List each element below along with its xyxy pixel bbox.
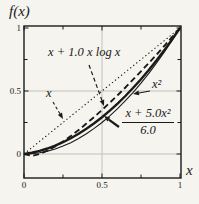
annotation-x-label: x xyxy=(46,87,52,101)
figure: f(x) x 1 0.5 0 0 0.5 1 x + 1.0 x log x x… xyxy=(0,0,199,204)
annotation-fraction-label: x + 5.0x² 6.0 xyxy=(116,106,180,138)
arrow-to-x-line-head xyxy=(58,113,63,119)
x-axis-title: x xyxy=(186,163,193,178)
arrow-to-x-line xyxy=(53,102,60,114)
y-tick-label-1: 1 xyxy=(5,24,21,33)
y-tick-label-0: 0 xyxy=(5,150,21,159)
annotation-x-squared-label: x² xyxy=(152,78,161,92)
plot-canvas xyxy=(0,0,199,204)
y-tick-label-0_5: 0.5 xyxy=(5,87,21,96)
fraction-denominator: 6.0 xyxy=(116,123,180,138)
x-tick-label-1: 1 xyxy=(175,181,185,190)
x-tick-label-0: 0 xyxy=(19,181,29,190)
arrow-to-dashed-curve xyxy=(89,65,102,100)
y-axis-title: f(x) xyxy=(9,4,30,19)
x-tick-label-0_5: 0.5 xyxy=(93,181,111,190)
annotation-x-log-x-label: x + 1.0 x log x xyxy=(48,46,120,60)
fraction-numerator: x + 5.0x² xyxy=(122,107,173,123)
